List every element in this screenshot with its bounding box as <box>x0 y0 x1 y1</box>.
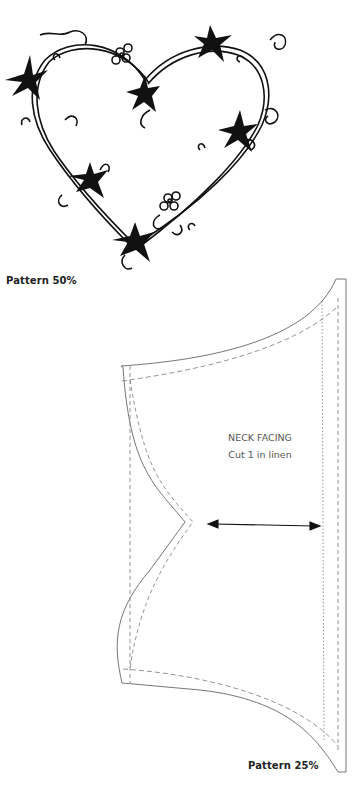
neck-facing-pattern-piece <box>0 0 363 791</box>
pattern-piece-title: NECK FACING <box>200 432 320 443</box>
pattern-piece-instruction: Cut 1 in linen <box>200 449 320 460</box>
bottom-figure-caption: Pattern 25% <box>248 760 319 771</box>
grainline-arrow-icon <box>208 520 320 530</box>
